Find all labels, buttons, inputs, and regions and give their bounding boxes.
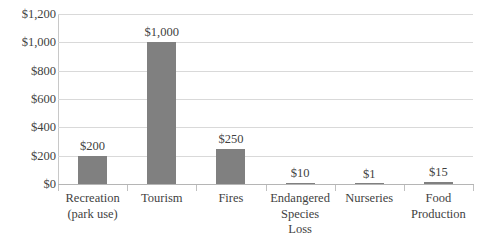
x-category-label-line: Loss bbox=[266, 222, 335, 238]
gridline bbox=[58, 71, 473, 72]
bar-chart: $1,200$1,000$800$600$400$200$0 $200$1,00… bbox=[0, 0, 481, 241]
x-category-label-line: Species bbox=[266, 207, 335, 223]
x-axis-labels: Recreation(park use)TourismFiresEndanger… bbox=[58, 191, 473, 241]
gridline bbox=[58, 42, 473, 43]
bar bbox=[147, 42, 176, 184]
y-tick-label: $1,000 bbox=[4, 36, 56, 49]
y-tick-label: $400 bbox=[4, 121, 56, 134]
x-category-label: Fires bbox=[196, 191, 265, 207]
bar-value-label: $10 bbox=[266, 167, 335, 180]
x-category-label-line: Fires bbox=[196, 191, 265, 207]
x-category-label: Nurseries bbox=[335, 191, 404, 207]
gridline bbox=[58, 14, 473, 15]
y-tick-label: $600 bbox=[4, 93, 56, 106]
bar-value-label: $15 bbox=[404, 166, 473, 179]
y-axis-labels: $1,200$1,000$800$600$400$200$0 bbox=[0, 0, 56, 241]
x-axis-tick bbox=[473, 185, 474, 191]
x-category-label: Tourism bbox=[127, 191, 196, 207]
x-category-label-line: Tourism bbox=[127, 191, 196, 207]
bar-value-label: $1 bbox=[335, 168, 404, 181]
bar-value-label: $200 bbox=[58, 140, 127, 153]
y-tick-label: $0 bbox=[4, 178, 56, 191]
x-category-label-line: Endangered bbox=[266, 191, 335, 207]
bar-value-label: $1,000 bbox=[127, 26, 196, 39]
x-category-label-line: Nurseries bbox=[335, 191, 404, 207]
y-tick-label: $200 bbox=[4, 150, 56, 163]
gridline bbox=[58, 127, 473, 128]
bar bbox=[216, 149, 245, 184]
x-category-label-line: Food bbox=[404, 191, 473, 207]
bar bbox=[78, 156, 107, 184]
gridline bbox=[58, 156, 473, 157]
bar-value-label: $250 bbox=[196, 133, 265, 146]
y-tick-label: $1,200 bbox=[4, 8, 56, 21]
x-category-label-line: Production bbox=[404, 207, 473, 223]
x-category-label: Recreation(park use) bbox=[58, 191, 127, 222]
x-category-label-line: Recreation bbox=[58, 191, 127, 207]
y-tick-label: $800 bbox=[4, 65, 56, 78]
plot-area bbox=[58, 14, 473, 184]
x-category-label: FoodProduction bbox=[404, 191, 473, 222]
x-category-label: EndangeredSpeciesLoss bbox=[266, 191, 335, 238]
x-category-label-line: (park use) bbox=[58, 207, 127, 223]
gridline bbox=[58, 99, 473, 100]
